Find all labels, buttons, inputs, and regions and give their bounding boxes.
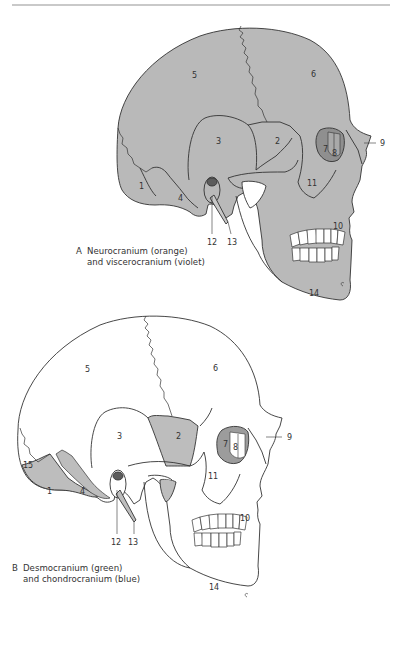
label-a-6: 6 xyxy=(311,70,316,79)
label-a-1: 1 xyxy=(139,182,144,191)
label-a-9: 9 xyxy=(380,139,385,148)
label-b-14: 14 xyxy=(209,583,219,592)
label-b-13: 13 xyxy=(128,538,138,547)
label-a-10: 10 xyxy=(333,222,343,231)
label-a-14: 14 xyxy=(309,289,319,298)
label-b-11: 11 xyxy=(208,472,218,481)
label-a-4: 4 xyxy=(178,194,183,203)
label-b-15: 15 xyxy=(23,461,33,470)
caption-b-line2: and chondrocranium (blue) xyxy=(23,574,140,585)
label-b-12: 12 xyxy=(111,538,121,547)
label-a-8: 8 xyxy=(332,149,337,158)
label-b-2: 2 xyxy=(176,432,181,441)
label-a-12: 12 xyxy=(207,238,217,247)
label-b-1: 1 xyxy=(47,487,52,496)
label-b-6: 6 xyxy=(213,364,218,373)
caption-a-line1: Neurocranium (orange) xyxy=(87,246,188,257)
caption-a-line2: and viscerocranium (violet) xyxy=(87,257,205,268)
label-a-3: 3 xyxy=(216,137,221,146)
caption-a-letter: A xyxy=(76,246,82,257)
caption-b-letter: B xyxy=(12,563,18,574)
label-b-9: 9 xyxy=(287,433,292,442)
label-b-5: 5 xyxy=(85,365,90,374)
label-a-2: 2 xyxy=(275,137,280,146)
label-a-7: 7 xyxy=(323,145,328,154)
label-b-8: 8 xyxy=(233,443,238,452)
label-b-4: 4 xyxy=(80,487,85,496)
label-b-7: 7 xyxy=(223,440,228,449)
label-b-3: 3 xyxy=(117,432,122,441)
skull-figure: 5 6 3 2 7 8 9 1 4 11 10 12 13 14 xyxy=(0,0,399,650)
label-b-10: 10 xyxy=(240,514,250,523)
label-a-13: 13 xyxy=(227,238,237,247)
caption-b-line1: Desmocranium (green) xyxy=(23,563,122,574)
label-a-11: 11 xyxy=(307,179,317,188)
skull-b xyxy=(18,316,282,597)
label-a-5: 5 xyxy=(192,71,197,80)
